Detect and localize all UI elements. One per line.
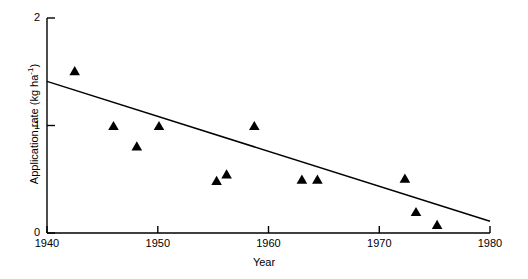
x-axis-ticks [47, 226, 490, 233]
data-point [297, 175, 308, 184]
y-axis-title: Application rate (kg ha-1) [28, 14, 40, 234]
data-point [211, 176, 222, 185]
y-axis-title-exponent: -1 [26, 68, 35, 75]
data-point [221, 169, 232, 178]
data-point [108, 121, 119, 130]
y-axis-title-tail: ) [28, 64, 40, 68]
x-tick-label-1940: 1940 [27, 238, 67, 249]
x-tick-label-1970: 1970 [359, 238, 399, 249]
data-point [132, 141, 143, 150]
data-point [154, 121, 165, 130]
data-point [69, 66, 80, 75]
x-tick-label-1960: 1960 [249, 238, 289, 249]
y-axis-ticks [47, 18, 55, 233]
data-point [249, 121, 260, 130]
y-axis-title-text: Application rate (kg ha [28, 75, 40, 184]
data-point [400, 174, 411, 183]
data-point [312, 175, 323, 184]
application-rate-scatter-chart: 2 1 0 1940 1950 1960 1970 1980 Year Appl… [0, 0, 528, 279]
x-axis-title: Year [0, 256, 528, 268]
data-point [432, 220, 443, 229]
trend-line [47, 81, 490, 221]
data-point [411, 207, 422, 216]
x-tick-label-1950: 1950 [138, 238, 178, 249]
x-tick-label-1980: 1980 [470, 238, 510, 249]
